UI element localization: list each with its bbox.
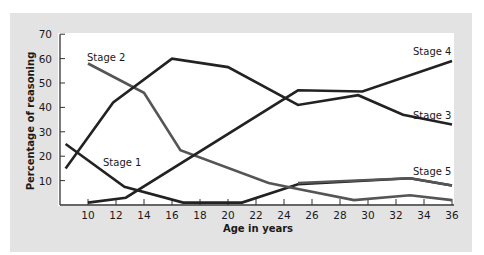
x-axis-title: Age in years <box>223 223 293 234</box>
series-label-stage-1: Stage 1 <box>103 157 141 168</box>
x-tick-label: 34 <box>417 209 431 221</box>
line-chart: 10203040506070 1012141618202224262830323… <box>0 0 484 255</box>
y-axis-title: Percentage of reasoning <box>25 52 36 191</box>
series-label-stage-2: Stage 2 <box>87 52 125 63</box>
series-label-stage-5: Stage 5 <box>413 166 451 177</box>
y-tick-label: 10 <box>39 175 52 187</box>
x-tick-label: 10 <box>81 209 94 221</box>
x-tick-label: 22 <box>249 209 262 221</box>
x-tick-label: 30 <box>361 209 374 221</box>
x-tick-label: 32 <box>389 209 402 221</box>
x-tick-label: 28 <box>333 209 346 221</box>
x-tick-label: 36 <box>445 209 459 221</box>
y-tick-label: 70 <box>39 28 52 40</box>
y-tick-label: 40 <box>39 101 52 113</box>
y-tick-label: 60 <box>39 53 52 65</box>
y-tick-label: 30 <box>39 126 52 138</box>
x-tick-label: 12 <box>109 209 122 221</box>
series-label-stage-4: Stage 4 <box>413 46 451 57</box>
x-tick-label: 24 <box>277 209 291 221</box>
x-tick-label: 18 <box>193 209 206 221</box>
y-tick-label: 50 <box>39 77 52 89</box>
y-tick-label: 20 <box>39 150 52 162</box>
x-tick-label: 20 <box>221 209 234 221</box>
x-tick-label: 16 <box>165 209 179 221</box>
x-tick-label: 14 <box>137 209 151 221</box>
series-label-stage-3: Stage 3 <box>413 110 451 121</box>
x-tick-label: 26 <box>305 209 319 221</box>
